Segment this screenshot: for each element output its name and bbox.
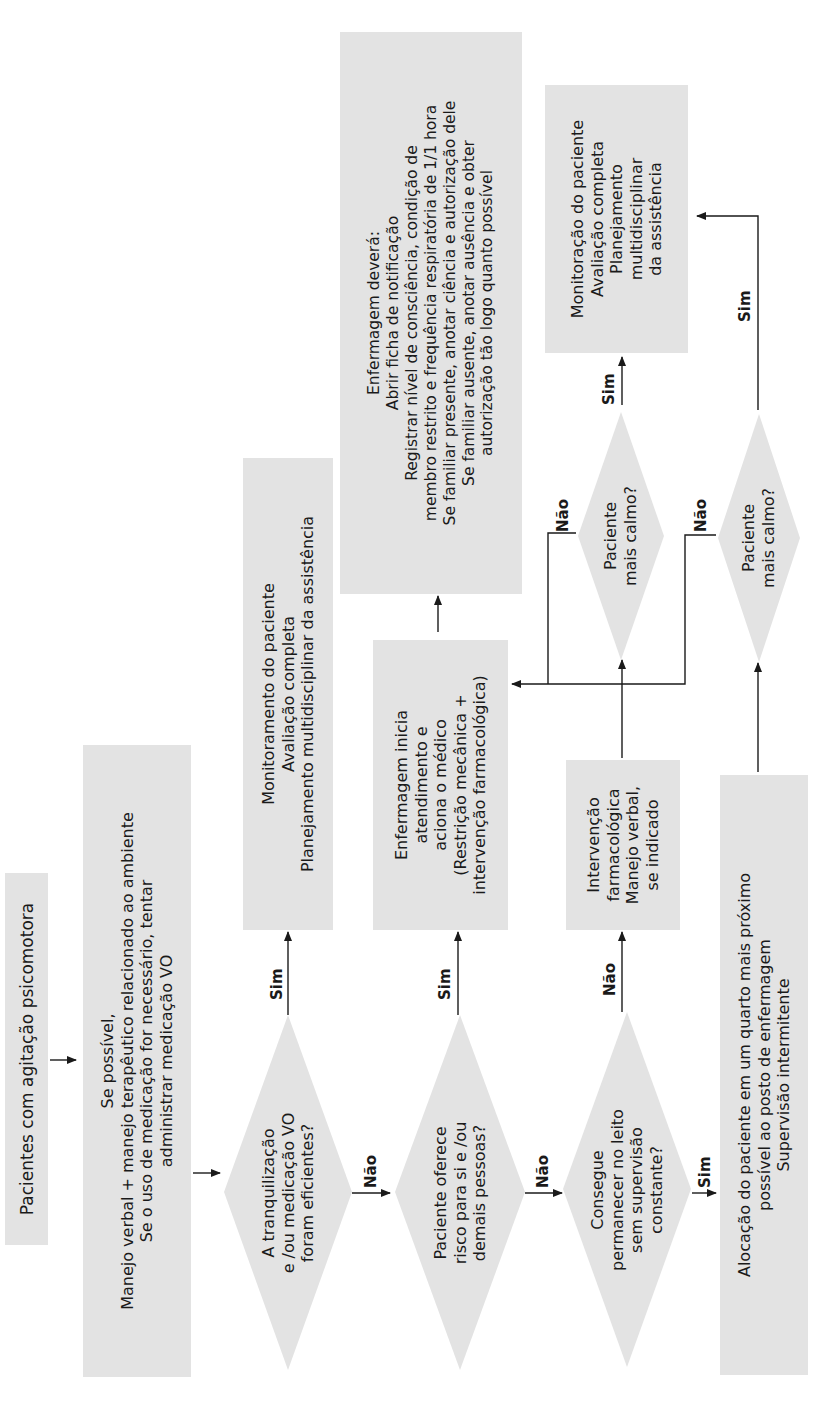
node-patient-monitoring-2-text: Monitoração do paciente Avaliação comple… (568, 120, 666, 318)
flowchart-canvas: Pacientes com agitação psicomotora Se po… (0, 0, 815, 1428)
node-patient-monitoring-2: Monitoração do paciente Avaliação comple… (545, 85, 688, 353)
decision-patient-risk-text: Paciente oferece risco para si e /ou dem… (431, 1121, 490, 1264)
decision-patient-calmer-1: Paciente mais calmo? (578, 412, 664, 660)
node-monitoring-patient: Monitoramento do paciente Avaliação comp… (243, 458, 333, 930)
node-verbal-management-text: Se possível, Manejo verbal + manejo tera… (98, 812, 176, 1310)
node-nursing-starts-care-text: Enfermagem inicia atendimento e aciona o… (392, 675, 490, 895)
node-nursing-must: Enfermagem deverá: Abrir ficha de notifi… (340, 32, 522, 594)
edge-label-bed-no: Não (601, 996, 634, 1014)
edge-label-calm1-no: Não (554, 532, 587, 550)
node-nursing-starts-care: Enfermagem inicia atendimento e aciona o… (373, 640, 508, 930)
edge-label-calm2-no: Não (692, 532, 725, 550)
node-pharmacological-intervention-text: Intervenção farmacológica Manejo verbal,… (584, 786, 662, 904)
decision-tranquilization-efficient-text: A tranquilização e /ou medicação VO fora… (259, 1112, 318, 1273)
node-verbal-management: Se possível, Manejo verbal + manejo tera… (83, 745, 191, 1377)
edge-label-risk-no: Não (534, 1188, 567, 1206)
node-patient-allocation: Alocação do paciente em um quarto mais p… (720, 775, 808, 1375)
node-patient-allocation-text: Alocação do paciente em um quarto mais p… (735, 873, 794, 1277)
decision-patient-risk: Paciente oferece risco para si e /ou dem… (395, 1015, 525, 1370)
decision-patient-calmer-1-text: Paciente mais calmo? (601, 486, 640, 586)
node-nursing-must-text: Enfermagem deverá: Abrir ficha de notifi… (365, 101, 497, 526)
edge-label-risk-yes: Sim (436, 1000, 468, 1018)
edge-label-calm1-yes: Sim (600, 405, 632, 423)
edge-label-bed-yes: Sim (696, 1188, 728, 1206)
node-start-text: Pacientes com agitação psicomotora (16, 903, 37, 1215)
edge-label-efficient-yes: Sim (268, 1000, 300, 1018)
edge-label-calm2-yes: Sim (736, 322, 768, 340)
node-monitoring-patient-text: Monitoramento do paciente Avaliação comp… (259, 516, 318, 872)
decision-stay-in-bed-text: Consegue permanecer no leito sem supervi… (588, 1109, 666, 1271)
node-start: Pacientes com agitação psicomotora (5, 873, 48, 1245)
decision-patient-calmer-2: Paciente mais calmo? (718, 414, 800, 662)
decision-stay-in-bed: Consegue permanecer no leito sem supervi… (563, 1012, 691, 1367)
decision-tranquilization-efficient: A tranquilização e /ou medicação VO fora… (224, 1015, 352, 1370)
edge-label-efficient-no: Não (362, 1188, 395, 1206)
node-pharmacological-intervention: Intervenção farmacológica Manejo verbal,… (566, 760, 680, 930)
decision-patient-calmer-2-text: Paciente mais calmo? (739, 488, 778, 588)
